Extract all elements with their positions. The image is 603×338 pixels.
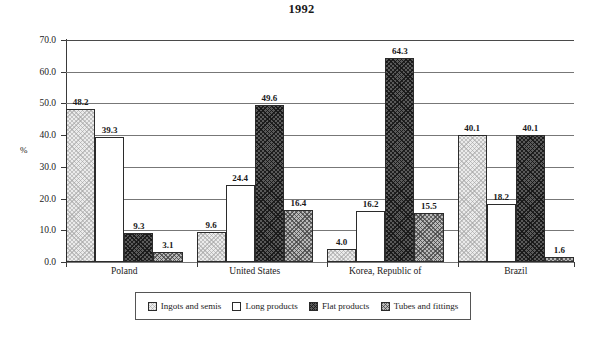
bar: [226, 185, 255, 262]
x-tick-mark: [574, 262, 575, 267]
bar-value-label: 16.2: [363, 199, 379, 209]
bar-value-label: 40.1: [522, 123, 538, 133]
y-tick-label: 50.0: [14, 98, 56, 108]
bar-value-label: 18.2: [493, 192, 509, 202]
bar-value-label: 49.6: [261, 93, 277, 103]
bar-value-label: 3.1: [162, 240, 173, 250]
legend-label: Ingots and semis: [161, 301, 222, 311]
y-tick-label: 20.0: [14, 194, 56, 204]
bar: [327, 249, 356, 262]
legend-label: Flat products: [322, 301, 369, 311]
x-tick-mark: [197, 262, 198, 267]
legend-item-long-products[interactable]: Long products: [232, 301, 297, 311]
legend-swatch-icon: [309, 302, 318, 311]
category-label: United States: [229, 266, 280, 276]
category-label: Poland: [111, 266, 137, 276]
bar: [197, 232, 226, 262]
legend-item-flat-products[interactable]: Flat products: [309, 301, 369, 311]
gridline: [66, 103, 574, 104]
bar: [95, 137, 124, 262]
bar: [516, 135, 545, 262]
bar-value-label: 64.3: [392, 46, 408, 56]
x-tick-mark: [66, 262, 67, 267]
bar-value-label: 15.5: [421, 201, 437, 211]
y-axis-title: %: [20, 145, 28, 155]
y-tick-label: 30.0: [14, 162, 56, 172]
legend-label: Tubes and fittings: [394, 301, 459, 311]
bar: [356, 211, 385, 262]
legend-swatch-icon: [232, 302, 241, 311]
bar: [414, 213, 443, 262]
plot-top-border: [66, 40, 574, 41]
chart-title: 1992: [0, 2, 603, 17]
category-label: Korea, Republic of: [349, 266, 422, 276]
bar-value-label: 1.6: [554, 245, 565, 255]
bar-value-label: 9.3: [133, 221, 144, 231]
legend-item-ingots-and-semis[interactable]: Ingots and semis: [148, 301, 222, 311]
bar: [487, 204, 516, 262]
x-tick-mark: [458, 262, 459, 267]
bar: [66, 109, 95, 262]
gridline: [66, 72, 574, 73]
gridline: [66, 167, 574, 168]
bar-value-label: 16.4: [291, 198, 307, 208]
bar: [545, 257, 574, 262]
bar: [458, 135, 487, 262]
bar-value-label: 40.1: [464, 123, 480, 133]
bar-value-label: 4.0: [336, 237, 347, 247]
legend-item-tubes-and-fittings[interactable]: Tubes and fittings: [381, 301, 459, 311]
legend-swatch-icon: [381, 302, 390, 311]
bar: [255, 105, 284, 262]
y-tick-label: 10.0: [14, 225, 56, 235]
bar: [153, 252, 182, 262]
legend-label: Long products: [245, 301, 297, 311]
category-label: Brazil: [504, 266, 527, 276]
bar: [124, 233, 153, 262]
y-tick-label: 60.0: [14, 67, 56, 77]
x-tick-mark: [327, 262, 328, 267]
gridline: [66, 135, 574, 136]
y-tick-label: 40.0: [14, 130, 56, 140]
gridline: [66, 262, 574, 263]
bar-value-label: 48.2: [73, 97, 89, 107]
bar-value-label: 9.6: [205, 220, 216, 230]
bar: [284, 210, 313, 262]
bar-chart: 1992 % 0.010.020.030.040.050.060.070.0 4…: [0, 0, 603, 338]
chart-legend: Ingots and semis Long products Flat prod…: [135, 292, 471, 320]
bar-value-label: 24.4: [232, 173, 248, 183]
y-tick-label: 70.0: [14, 35, 56, 45]
bar: [385, 58, 414, 262]
legend-swatch-icon: [148, 302, 157, 311]
y-tick-label: 0.0: [14, 257, 56, 267]
bar-value-label: 39.3: [102, 125, 118, 135]
